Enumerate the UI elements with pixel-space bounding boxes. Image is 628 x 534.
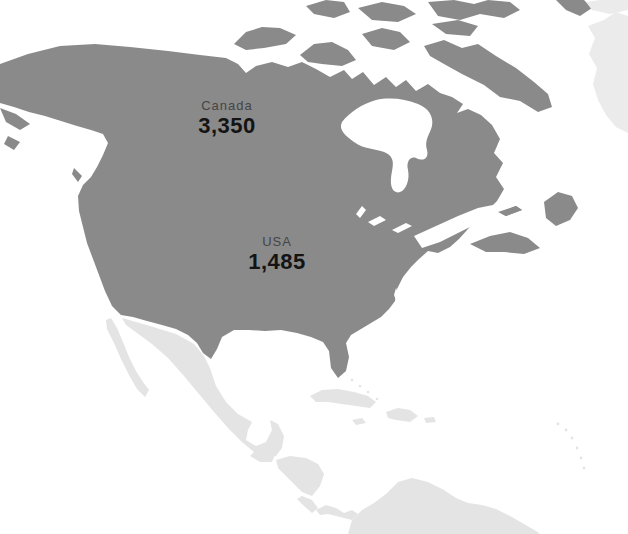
south-america-shape — [348, 478, 540, 534]
panama-shape — [316, 505, 358, 520]
lesser-antilles-islets — [557, 423, 586, 470]
nova-scotia-shape[interactable] — [470, 232, 540, 254]
greenland-islet-shape — [586, 0, 628, 14]
hispaniola-shape — [386, 408, 418, 422]
arctic-island-shape[interactable] — [362, 28, 410, 50]
costa-rica-shape — [297, 496, 318, 513]
ellesmere-island-shape[interactable] — [428, 0, 520, 20]
jamaica-shape — [352, 418, 366, 425]
haida-gwaii-shape[interactable] — [72, 168, 82, 182]
north-america-map — [0, 0, 628, 534]
greenland-shape — [588, 12, 628, 133]
region-canada-usa[interactable] — [0, 0, 618, 378]
arctic-island-shape[interactable] — [306, 0, 350, 18]
arctic-island-shape[interactable] — [358, 2, 416, 22]
newfoundland-shape[interactable] — [544, 192, 578, 226]
devon-island-shape[interactable] — [432, 20, 478, 36]
kodiak-island-shape[interactable] — [4, 136, 20, 150]
map-canvas: Canada 3,350 USA 1,485 — [0, 0, 628, 534]
cuba-shape — [310, 389, 376, 408]
honduras-nicaragua-shape — [276, 456, 324, 496]
banks-island-shape[interactable] — [234, 27, 296, 50]
mainland-shape[interactable] — [0, 44, 504, 378]
victoria-island-shape[interactable] — [300, 42, 356, 66]
puerto-rico-shape — [424, 417, 436, 423]
alaska-peninsula-shape[interactable] — [0, 108, 30, 130]
